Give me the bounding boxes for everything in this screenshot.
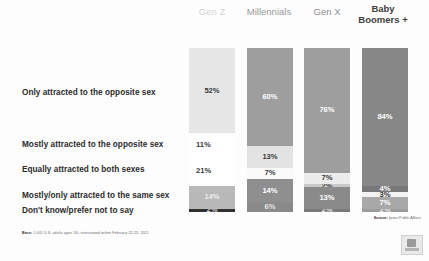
logo-wordmark	[405, 248, 419, 251]
slide-canvas: Gen Z Millennials Gen X Baby Boomers + O…	[0, 0, 429, 261]
source-prefix: Source:	[374, 216, 388, 220]
bar-segment: 13%	[247, 146, 293, 167]
bar-gen-x: 76%7%2%13%2%	[304, 48, 350, 212]
base-footnote: Base: 1,001 U.S. adults ages 18+ intervi…	[22, 231, 149, 235]
stacked-bar-plot: 52%11%21%14%2% 60%13%7%14%6% 76%7%2%13%2…	[0, 0, 429, 261]
bar-segment-label: 7%	[265, 169, 276, 177]
logo-mark-icon	[407, 239, 416, 247]
bar-segment-label: 2%	[380, 209, 391, 212]
bar-segment-label: 7%	[322, 174, 333, 182]
bar-segment-label: 6%	[265, 203, 276, 211]
bar-segment-label: 60%	[262, 93, 277, 101]
bar-segment-label: 13%	[262, 153, 277, 161]
bar-segment: 7%	[362, 197, 408, 208]
bar-segment: 2%	[189, 209, 235, 212]
bar-segment: 2%	[362, 209, 408, 212]
ipsos-logo	[401, 235, 423, 255]
bar-segment: 76%	[304, 48, 350, 173]
bar-segment: 2%	[304, 209, 350, 212]
outside-label-genz-equally-both: 21%	[196, 166, 211, 175]
source-attribution: Source: Ipsos Public Affairs	[374, 216, 421, 220]
source-text: Ipsos Public Affairs	[389, 216, 421, 220]
bar-baby-boomers: 84%4%3%7%2%	[362, 48, 408, 212]
bar-segment: 60%	[247, 48, 293, 146]
base-footnote-text: 1,001 U.S. adults ages 18+ interviewed o…	[33, 231, 148, 235]
bar-segment: 6%	[247, 202, 293, 212]
bar-segment: 14%	[189, 186, 235, 209]
bar-segment: 13%	[304, 187, 350, 208]
bar-segment: 14%	[247, 179, 293, 202]
bar-segment-label: 7%	[380, 199, 391, 207]
outside-label-genz-mostly-opposite: 11%	[196, 140, 211, 149]
bar-segment: 84%	[362, 48, 408, 186]
bar-gen-z: 52%11%21%14%2%	[189, 48, 235, 212]
bar-segment-label: 2%	[207, 209, 218, 212]
bar-millennials: 60%13%7%14%6%	[247, 48, 293, 212]
bar-segment-label: 2%	[322, 209, 333, 212]
bar-segment: 7%	[304, 173, 350, 184]
bar-segment: 7%	[247, 168, 293, 179]
bar-segment-label: 14%	[262, 187, 277, 195]
bar-segment-label: 76%	[319, 106, 334, 114]
bar-segment-label: 84%	[377, 113, 392, 121]
bar-segment-label: 13%	[319, 194, 334, 202]
bar-segment-label: 52%	[204, 87, 219, 95]
bar-segment-label: 14%	[204, 193, 219, 201]
base-footnote-prefix: Base:	[22, 231, 32, 235]
bar-segment: 52%	[189, 48, 235, 133]
